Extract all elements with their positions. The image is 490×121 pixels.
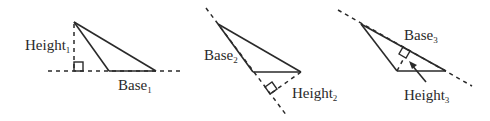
height-3-label: Height3	[404, 87, 450, 105]
right-angle-marker-2	[265, 82, 277, 94]
triangle-1-left-side	[74, 22, 109, 71]
arrow-head-icon	[409, 61, 417, 69]
base-2-label: Base2	[204, 47, 238, 65]
right-angle-marker-3	[399, 47, 410, 58]
triangle-1-right-side	[74, 22, 156, 71]
base-1-label: Base1	[118, 77, 152, 95]
triangle-3-left-side	[361, 24, 397, 71]
triangle-2: Base2 Height2	[204, 8, 337, 116]
height-2-label: Height2	[292, 85, 337, 103]
triangle-3: Base3 Height3	[338, 10, 472, 105]
right-angle-marker-1	[74, 62, 83, 71]
triangle-1: Height1 Base1	[25, 22, 182, 95]
height-1-label: Height1	[25, 37, 70, 55]
height-3-line	[397, 58, 404, 71]
triangle-diagrams: Height1 Base1 Base2 Height2 Base3 Height…	[0, 0, 490, 121]
base-3-label: Base3	[404, 27, 438, 45]
